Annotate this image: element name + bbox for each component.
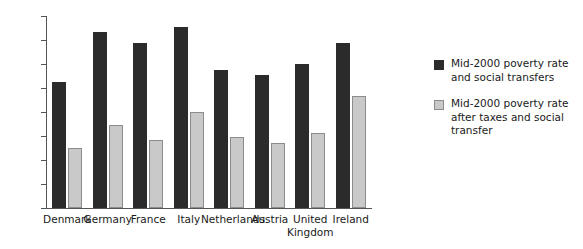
bar-after-transfers [190,112,204,208]
bar-after-transfers [311,133,325,208]
x-axis-label: Ireland [323,213,380,226]
bar-before-transfers [174,27,188,208]
bar-before-transfers [52,82,66,208]
bar-after-transfers [109,125,123,208]
bar-before-transfers [255,75,269,208]
bar-group [174,16,204,208]
legend-swatch-dark-icon [434,60,444,70]
bar-after-transfers [149,140,163,208]
bar-before-transfers [295,64,309,208]
bar-group [336,16,366,208]
bar-group [214,16,244,208]
bar-before-transfers [93,32,107,208]
bar-after-transfers [68,148,82,208]
legend-entry: Mid-2000 poverty rate and social transfe… [434,57,580,84]
bar-before-transfers [214,70,228,208]
bar-after-transfers [271,143,285,208]
plot-area [47,16,371,208]
chart-legend: Mid-2000 poverty rate and social transfe… [434,57,580,151]
bar-after-transfers [230,137,244,208]
bar-group [255,16,285,208]
legend-label: Mid-2000 poverty rate and social transfe… [451,57,580,84]
legend-entry: Mid-2000 poverty rate after taxes and so… [434,97,580,138]
bar-before-transfers [133,43,147,208]
bar-group [295,16,325,208]
legend-label: Mid-2000 poverty rate after taxes and so… [451,97,580,138]
legend-swatch-light-icon [434,100,444,110]
bar-chart: 4035302520151050 DenmarkGermanyFranceIta… [0,0,583,249]
bar-group [93,16,123,208]
bar-group [133,16,163,208]
bar-group [52,16,82,208]
bar-after-transfers [352,96,366,208]
y-axis-tick-mark [41,208,47,209]
x-axis-line [47,208,372,209]
bar-before-transfers [336,43,350,208]
